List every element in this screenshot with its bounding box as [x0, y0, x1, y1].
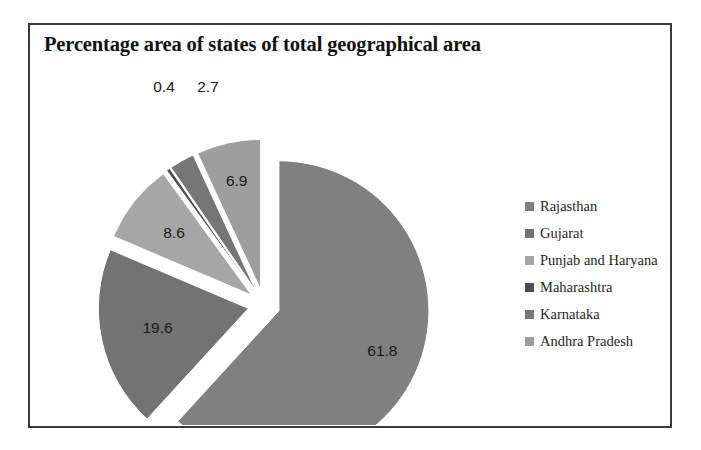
pie-slice-data-label: 2.7 — [197, 78, 219, 95]
legend-item[interactable]: Andhra Pradesh — [524, 328, 674, 355]
pie-slice-data-label: 61.8 — [367, 342, 397, 359]
pie-chart-plot-area: 61.819.68.60.42.76.9 — [42, 70, 502, 425]
legend-item[interactable]: Maharashtra — [524, 274, 674, 301]
pie-slice[interactable] — [178, 161, 429, 425]
chart-title: Percentage area of states of total geogr… — [44, 33, 644, 56]
legend-label: Gujarat — [540, 226, 583, 241]
legend-swatch-icon — [525, 310, 534, 319]
legend-swatch-icon — [525, 229, 534, 238]
legend-label: Punjab and Haryana — [540, 253, 658, 268]
legend-label: Rajasthan — [540, 199, 597, 214]
legend-label: Maharashtra — [540, 280, 612, 295]
pie-slice-group — [98, 139, 429, 425]
pie-slice-data-label: 19.6 — [142, 319, 172, 336]
legend: RajasthanGujaratPunjab and HaryanaMahara… — [524, 193, 674, 355]
pie-slice-data-label: 6.9 — [226, 172, 248, 189]
pie-chart-svg: 61.819.68.60.42.76.9 — [42, 70, 502, 425]
legend-swatch-icon — [525, 283, 534, 292]
legend-label: Andhra Pradesh — [540, 334, 633, 349]
legend-item[interactable]: Gujarat — [524, 220, 674, 247]
legend-item[interactable]: Karnataka — [524, 301, 674, 328]
legend-item[interactable]: Punjab and Haryana — [524, 247, 674, 274]
pie-slice-data-label: 0.4 — [153, 78, 175, 95]
legend-swatch-icon — [525, 337, 534, 346]
legend-item[interactable]: Rajasthan — [524, 193, 674, 220]
chart-frame: Percentage area of states of total geogr… — [28, 23, 672, 428]
legend-label: Karnataka — [540, 307, 600, 322]
legend-swatch-icon — [525, 256, 534, 265]
pie-slice-data-label: 8.6 — [163, 224, 185, 241]
legend-swatch-icon — [525, 202, 534, 211]
